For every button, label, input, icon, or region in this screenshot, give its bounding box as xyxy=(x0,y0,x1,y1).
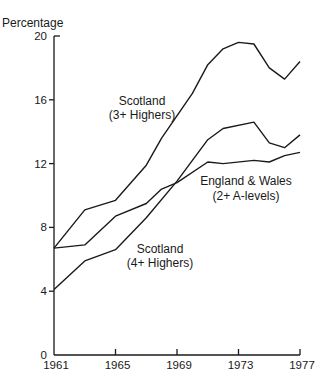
y-tick-label: 20 xyxy=(34,30,47,42)
x-tick-label: 1965 xyxy=(105,359,131,371)
series-label-england-wales: England & Wales (2+ A-levels) xyxy=(200,174,292,203)
svg-text:(2+ A-levels): (2+ A-levels) xyxy=(212,189,279,203)
svg-text:Scotland: Scotland xyxy=(119,94,166,108)
series-label-scotland-4plus: Scotland (4+ Highers) xyxy=(127,242,193,270)
y-tick-label: 4 xyxy=(41,285,48,297)
y-tick-group: 048121620 xyxy=(34,30,54,361)
x-tick-group: 19611965196919731977 xyxy=(43,349,315,371)
y-tick-label: 16 xyxy=(34,94,47,106)
x-tick-label: 1977 xyxy=(289,359,315,371)
y-axis xyxy=(54,36,60,355)
svg-text:England & Wales: England & Wales xyxy=(200,174,292,188)
x-tick-label: 1973 xyxy=(228,359,254,371)
svg-text:(3+ Highers): (3+ Highers) xyxy=(109,108,175,122)
series-line-scotland-3plus xyxy=(54,42,300,248)
x-tick-label: 1961 xyxy=(43,359,69,371)
svg-text:Scotland: Scotland xyxy=(137,242,184,256)
y-tick-label: 8 xyxy=(41,221,47,233)
svg-text:(4+ Highers): (4+ Highers) xyxy=(127,256,193,270)
x-tick-label: 1969 xyxy=(166,359,192,371)
y-axis-label: Percentage xyxy=(2,16,64,30)
y-tick-label: 12 xyxy=(34,158,47,170)
series-label-scotland-3plus: Scotland (3+ Highers) xyxy=(109,94,175,122)
line-chart: Percentage 048121620 1961196519691973197… xyxy=(0,0,324,392)
